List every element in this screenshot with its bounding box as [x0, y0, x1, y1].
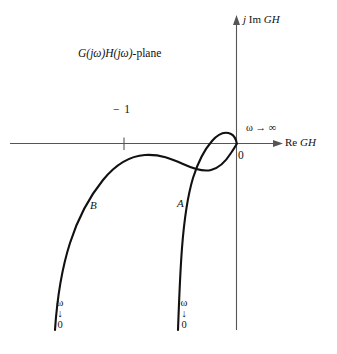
imaginary-axis-label: j Im GH [243, 14, 280, 25]
omega-symbol-right: ω [176, 297, 192, 308]
imaginary-axis-label-gh: GH [264, 13, 280, 25]
plane-title: G(jω)H(jω)-plane [78, 48, 161, 60]
omega-limit-left: 0 [52, 319, 68, 330]
origin-label: 0 [238, 150, 244, 162]
omega-to-zero-left: ω ↓ 0 [52, 297, 68, 330]
omega-arrow-right: ↓ [176, 308, 192, 319]
imaginary-axis-label-text: Im [246, 13, 264, 25]
omega-arrow-left: ↓ [52, 308, 68, 319]
omega-limit-right: 0 [176, 319, 192, 330]
real-axis-label: Re GH [285, 137, 316, 148]
real-axis [10, 140, 283, 147]
omega-infinity-label: ω → ∞ [246, 123, 276, 134]
plot-canvas [0, 0, 337, 354]
real-axis-label-gh: GH [300, 136, 316, 148]
omega-to-zero-right: ω ↓ 0 [176, 297, 192, 330]
nyquist-plot-figure: G(jω)H(jω)-plane j Im GH Re GH − 1 0 ω →… [0, 0, 337, 354]
real-axis-label-text: Re [285, 136, 300, 148]
plane-title-suffix: -plane [133, 47, 162, 59]
branch-a-label: A [177, 198, 184, 209]
branch-b-label: B [90, 200, 97, 211]
imaginary-axis [233, 15, 240, 330]
curve-branch-b [55, 144, 237, 330]
omega-symbol-left: ω [52, 297, 68, 308]
critical-point-label: − 1 [113, 104, 131, 116]
plane-title-expression: G(jω)H(jω) [78, 47, 133, 59]
